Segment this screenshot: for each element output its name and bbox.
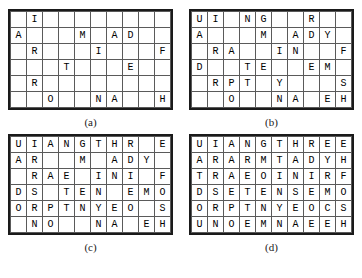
grid-cell[interactable] [107,60,123,76]
grid-cell[interactable]: A [11,153,27,169]
grid-cell[interactable] [139,201,155,217]
grid-cell[interactable]: A [107,28,123,44]
grid-cell[interactable]: A [107,217,123,233]
grid-cell[interactable] [240,28,256,44]
grid-cell[interactable]: A [288,153,304,169]
grid-cell[interactable]: E [224,185,240,201]
grid-cell[interactable] [123,12,139,28]
grid-cell[interactable]: R [27,201,43,217]
grid-cell[interactable]: T [59,201,75,217]
grid-cell[interactable] [320,12,336,28]
grid-cell[interactable]: S [208,185,224,201]
grid-cell[interactable] [123,92,139,108]
grid-cell[interactable] [11,92,27,108]
grid-cell[interactable]: A [224,137,240,153]
grid-cell[interactable]: A [43,137,59,153]
grid-cell[interactable] [11,44,27,60]
grid-cell[interactable] [11,217,27,233]
grid-cell[interactable]: O [304,201,320,217]
grid-cell[interactable]: M [75,28,91,44]
grid-cell[interactable]: E [320,137,336,153]
grid-cell[interactable] [139,76,155,92]
grid-cell[interactable]: O [336,185,352,201]
grid-cell[interactable]: N [256,201,272,217]
grid-cell[interactable]: T [272,153,288,169]
grid-cell[interactable]: E [256,185,272,201]
grid-cell[interactable] [43,44,59,60]
grid-cell[interactable]: R [123,137,139,153]
grid-cell[interactable]: T [91,137,107,153]
grid-cell[interactable]: C [320,201,336,217]
grid-cell[interactable] [139,28,155,44]
grid-cell[interactable]: I [91,44,107,60]
grid-cell[interactable] [139,137,155,153]
grid-cell[interactable] [75,217,91,233]
grid-cell[interactable] [43,185,59,201]
grid-cell[interactable] [59,92,75,108]
grid-cell[interactable]: I [272,44,288,60]
grid-cell[interactable] [304,92,320,108]
grid-cell[interactable] [59,76,75,92]
grid-cell[interactable] [224,28,240,44]
grid-cell[interactable] [272,12,288,28]
grid-cell[interactable] [139,169,155,185]
grid-cell[interactable]: I [272,169,288,185]
grid-cell[interactable] [256,92,272,108]
grid-cell[interactable]: R [320,169,336,185]
grid-cell[interactable] [91,153,107,169]
grid-cell[interactable]: E [59,169,75,185]
grid-cell[interactable]: R [27,44,43,60]
grid-cell[interactable]: I [91,169,107,185]
grid-cell[interactable] [59,44,75,60]
grid-cell[interactable]: U [11,137,27,153]
grid-cell[interactable] [139,92,155,108]
grid-cell[interactable] [59,217,75,233]
grid-cell[interactable] [27,28,43,44]
grid-cell[interactable] [139,60,155,76]
grid-cell[interactable]: Y [320,153,336,169]
grid-cell[interactable]: G [256,137,272,153]
grid-cell[interactable]: H [288,137,304,153]
grid-cell[interactable]: M [256,153,272,169]
grid-cell[interactable]: E [336,137,352,153]
grid-cell[interactable]: R [208,44,224,60]
grid-cell[interactable]: D [304,28,320,44]
grid-cell[interactable]: D [304,153,320,169]
grid-cell[interactable] [192,44,208,60]
grid-cell[interactable]: A [224,153,240,169]
grid-cell[interactable] [91,76,107,92]
grid-cell[interactable] [59,12,75,28]
grid-cell[interactable]: E [240,169,256,185]
grid-cell[interactable]: R [208,169,224,185]
grid-cell[interactable] [75,44,91,60]
grid-cell[interactable]: T [240,201,256,217]
grid-cell[interactable]: E [139,217,155,233]
grid-cell[interactable]: O [224,217,240,233]
grid-cell[interactable]: H [107,137,123,153]
grid-cell[interactable]: N [272,92,288,108]
grid-cell[interactable]: E [240,217,256,233]
grid-cell[interactable]: E [256,60,272,76]
grid-cell[interactable] [155,12,171,28]
grid-cell[interactable] [91,60,107,76]
grid-cell[interactable] [107,44,123,60]
grid-cell[interactable]: A [288,28,304,44]
grid-cell[interactable]: N [75,201,91,217]
grid-cell[interactable]: N [272,217,288,233]
grid-cell[interactable]: U [192,217,208,233]
grid-cell[interactable]: E [155,137,171,153]
grid-cell[interactable] [43,76,59,92]
grid-cell[interactable] [224,12,240,28]
grid-cell[interactable]: H [155,217,171,233]
grid-cell[interactable] [11,76,27,92]
grid-cell[interactable]: S [288,185,304,201]
grid-cell[interactable] [320,44,336,60]
grid-cell[interactable] [240,44,256,60]
grid-cell[interactable]: D [11,185,27,201]
grid-cell[interactable]: M [256,28,272,44]
grid-cell[interactable] [43,28,59,44]
grid-cell[interactable]: S [336,201,352,217]
grid-cell[interactable] [11,12,27,28]
grid-cell[interactable]: I [27,137,43,153]
grid-cell[interactable] [43,153,59,169]
